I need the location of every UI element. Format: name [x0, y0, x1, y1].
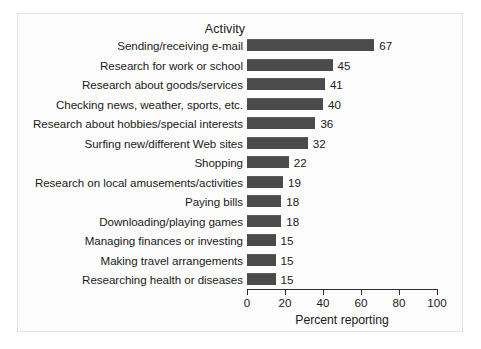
category-label: Research about goods/services	[22, 79, 243, 91]
bar-value-label: 19	[288, 177, 301, 189]
bar-value-label: 41	[330, 79, 343, 91]
bar	[247, 98, 323, 110]
x-axis-tick-label: 80	[393, 297, 406, 309]
bar-value-label: 18	[286, 216, 299, 228]
bar-value-label: 15	[281, 235, 294, 247]
plot-area: Sending/receiving e-mail67Research for w…	[0, 0, 481, 349]
bar	[247, 39, 374, 51]
category-label: Shopping	[22, 157, 243, 169]
bar	[247, 254, 276, 266]
x-axis-tick-label: 40	[317, 297, 330, 309]
category-label: Research for work or school	[22, 60, 243, 72]
category-label: Research about hobbies/special interests	[22, 118, 243, 130]
x-axis-tick	[437, 289, 438, 295]
bar-value-label: 15	[281, 255, 294, 267]
x-axis-tick-label: 0	[244, 297, 250, 309]
category-label: Surfing new/different Web sites	[22, 138, 243, 150]
category-label: Checking news, weather, sports, etc.	[22, 99, 243, 111]
bar-value-label: 40	[328, 99, 341, 111]
chart-figure: Activity Sending/receiving e-mail67Resea…	[0, 0, 481, 349]
x-axis-tick-label: 60	[355, 297, 368, 309]
bar-value-label: 45	[338, 60, 351, 72]
x-axis-tick-label: 20	[279, 297, 292, 309]
bar	[247, 176, 283, 188]
category-label: Researching health or diseases	[22, 274, 243, 286]
bar-value-label: 22	[294, 157, 307, 169]
bar	[247, 195, 281, 207]
bar	[247, 273, 276, 285]
category-label: Sending/receiving e-mail	[22, 40, 243, 52]
bar	[247, 117, 315, 129]
bar	[247, 59, 333, 71]
x-axis-line	[247, 289, 437, 290]
bar-value-label: 15	[281, 274, 294, 286]
bar-value-label: 36	[320, 118, 333, 130]
category-label: Managing finances or investing	[22, 235, 243, 247]
x-axis-tick-label: 100	[427, 297, 446, 309]
bar	[247, 137, 308, 149]
bar	[247, 234, 276, 246]
category-label: Downloading/playing games	[22, 216, 243, 228]
bar	[247, 156, 289, 168]
bar-value-label: 18	[286, 196, 299, 208]
category-label: Research on local amusements/activities	[22, 177, 243, 189]
bar-value-label: 32	[313, 138, 326, 150]
bar-value-label: 67	[379, 40, 392, 52]
bar	[247, 78, 325, 90]
bar	[247, 215, 281, 227]
category-label: Making travel arrangements	[22, 255, 243, 267]
category-label: Paying bills	[22, 196, 243, 208]
x-axis-label: Percent reporting	[247, 313, 437, 327]
